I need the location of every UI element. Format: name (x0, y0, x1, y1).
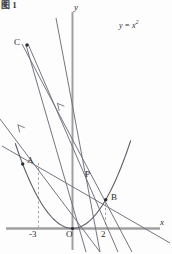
arrow-marker-upper (58, 104, 65, 111)
figure-caption: 图 1 (1, 1, 17, 10)
x-tick-label-minus3: -3 (29, 230, 37, 239)
point-C (25, 43, 28, 46)
point-label-P: P (85, 170, 90, 179)
curve-equation-label: y = x2 (119, 19, 139, 30)
x-tick-label-2: 2 (101, 230, 106, 239)
curve-equation-exponent: 2 (136, 19, 139, 25)
x-axis-label: x (160, 218, 164, 227)
y-axis-label: y (74, 3, 78, 12)
curve-equation-text: y = x (119, 21, 136, 30)
origin-label: O (66, 230, 73, 239)
point-label-A: A (27, 156, 34, 165)
lines-group (0, 18, 170, 252)
geometry-plot (0, 0, 172, 254)
figure-container: 图 1 y x y = x2 C A P B O -3 2 (0, 0, 172, 254)
point-A (21, 162, 24, 165)
point-label-C: C (14, 38, 20, 47)
arrow-marker-lower (18, 125, 24, 132)
line-left-shallow (0, 119, 100, 252)
point-label-B: B (111, 193, 117, 202)
direction-arrows (18, 104, 64, 133)
point-B (104, 198, 108, 202)
